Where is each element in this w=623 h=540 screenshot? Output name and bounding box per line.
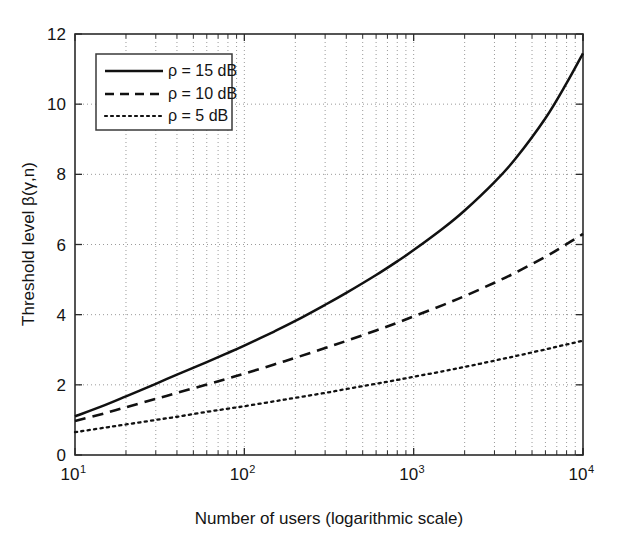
legend-label: ρ = 15 dB <box>168 62 237 79</box>
y-tick-label: 4 <box>57 306 66 325</box>
y-tick-label: 0 <box>57 446 66 465</box>
figure-container: 024681012 101102103104 Number of users (… <box>0 0 623 540</box>
x-tick-label-group: 104 <box>569 463 595 484</box>
x-tick-label: 10 <box>399 465 418 484</box>
x-tick-label: 10 <box>61 465 80 484</box>
y-tick-label: 2 <box>57 376 66 395</box>
x-tick-label-exponent: 4 <box>588 463 594 475</box>
chart-canvas: 024681012 101102103104 Number of users (… <box>0 0 623 540</box>
x-tick-label: 10 <box>230 465 249 484</box>
y-tick-label: 8 <box>57 165 66 184</box>
y-tick-label: 10 <box>47 95 66 114</box>
legend-label: ρ = 5 dB <box>168 107 228 124</box>
x-tick-label-group: 103 <box>399 463 425 484</box>
y-tick-label: 6 <box>57 236 66 255</box>
legend-label: ρ = 10 dB <box>168 85 237 102</box>
x-tick-label-exponent: 1 <box>80 463 86 475</box>
x-tick-label-exponent: 3 <box>419 463 425 475</box>
y-axis-title: Threshold level β(γ,n) <box>19 162 38 326</box>
x-tick-label-group: 101 <box>61 463 87 484</box>
x-tick-label-exponent: 2 <box>249 463 255 475</box>
legend[interactable]: ρ = 15 dBρ = 10 dBρ = 5 dB <box>96 54 237 130</box>
x-axis-title: Number of users (logarithmic scale) <box>195 509 463 528</box>
x-tick-label: 10 <box>569 465 588 484</box>
y-tick-labels: 024681012 <box>47 25 66 465</box>
x-tick-labels: 101102103104 <box>61 463 595 484</box>
y-tick-label: 12 <box>47 25 66 44</box>
x-tick-label-group: 102 <box>230 463 256 484</box>
